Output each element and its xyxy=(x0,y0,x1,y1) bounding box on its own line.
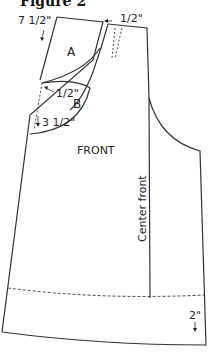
label-neck-shift: 1/2" xyxy=(120,12,143,25)
pattern-diagram: Figure 2 7 1/2" 1/2" A 1/2" B 3 1/2" FRO… xyxy=(0,0,213,352)
neck-dart-dashed-2 xyxy=(115,28,122,58)
hem-fold-dashed xyxy=(8,288,205,296)
label-center-front: Center front xyxy=(136,175,149,242)
arrowhead-neck-shift xyxy=(104,19,108,23)
arrowhead-hem xyxy=(193,328,197,332)
label-shoulder-drop: 7 1/2" xyxy=(18,14,51,27)
arrowhead-b-drop xyxy=(36,123,40,127)
arrowhead-b-shift xyxy=(44,86,48,90)
center-front-line xyxy=(149,98,150,298)
arrowhead-shoulder-drop xyxy=(40,37,44,41)
label-hem-allowance: 2" xyxy=(189,309,201,322)
label-piece-a: A xyxy=(67,45,76,59)
arrow-shoulder-drop xyxy=(42,30,44,38)
label-b-drop: 3 1/2" xyxy=(42,116,75,129)
neck-dart-dashed-1 xyxy=(112,28,115,58)
figure-title: Figure 2 xyxy=(20,0,86,9)
label-piece-b: B xyxy=(73,97,81,111)
label-front: FRONT xyxy=(77,144,115,157)
